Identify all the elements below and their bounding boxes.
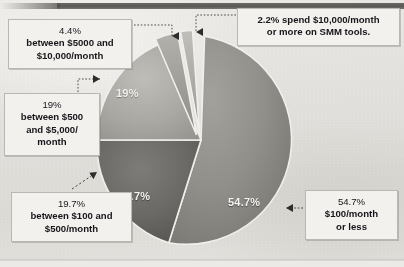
callout-19[interactable]: 19% between $500 and $5,000/ month — [4, 93, 100, 156]
leader-line-19 — [78, 79, 100, 92]
callout-line-2: or more on SMM tools. — [267, 26, 370, 37]
callout-percent: 19% — [11, 99, 93, 111]
callout-line-1: 2.2% spend $10,000/month — [257, 14, 379, 25]
callout-2-2[interactable]: 2.2% spend $10,000/month or more on SMM … — [237, 8, 400, 46]
callout-19-7[interactable]: 19.7% between $100 and $500/month — [11, 192, 132, 242]
callout-line-1: between $500 — [21, 111, 83, 122]
callout-4-4[interactable]: 4.4% between $5000 and $10,000/month — [8, 19, 132, 69]
callout-line-2: $10,000/month — [37, 50, 104, 61]
callout-line-2: $500/month — [45, 223, 98, 234]
callout-percent: 54.7% — [312, 196, 391, 208]
callout-percent: 19.7% — [18, 198, 125, 210]
callout-line-3: month — [37, 136, 66, 147]
callout-line-2: and $5,000/ — [26, 124, 78, 135]
slice-value-19: 19% — [116, 87, 139, 99]
chart-page: 54.7% 19.7% 19% 4.4% between $5000 and $… — [0, 0, 404, 267]
callout-line-2: or less — [336, 221, 367, 232]
callout-line-1: between $5000 and — [26, 37, 113, 48]
callout-54-7[interactable]: 54.7% $100/month or less — [305, 190, 398, 240]
callout-line-1: between $100 and — [30, 210, 112, 221]
slice-value-54-7: 54.7% — [228, 196, 260, 208]
leader-line-2-2 — [196, 15, 236, 32]
callout-line-1: $100/month — [325, 208, 378, 219]
leader-line-19-7 — [72, 172, 97, 189]
callout-percent: 4.4% — [15, 25, 125, 37]
